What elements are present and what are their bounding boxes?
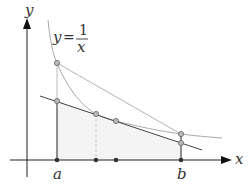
- point-tangency: [93, 111, 98, 116]
- y-axis-label: y: [24, 1, 34, 19]
- tick-label-a: a: [53, 165, 62, 183]
- function-label-numerator: 1: [79, 22, 88, 38]
- point-curve-at-b: [178, 131, 183, 136]
- point-tangent-at-a: [54, 98, 59, 103]
- axis-point-b: [179, 158, 184, 163]
- point-curve-at-a: [54, 60, 59, 65]
- point-tangent-at-b: [178, 140, 183, 145]
- x-axis-arrow-icon: [221, 156, 232, 164]
- axis-point-midpoint: [94, 158, 99, 163]
- function-label-lhs: y: [52, 28, 62, 46]
- axis-point-extra: [114, 158, 119, 163]
- reciprocal-function-diagram: x y a b y = 1 x: [0, 0, 249, 189]
- x-axis-label: x: [235, 150, 244, 168]
- function-label-equals: =: [63, 29, 75, 45]
- point-curve-mid: [113, 118, 118, 123]
- y-axis-arrow-icon: [23, 18, 31, 29]
- axis-point-a: [55, 158, 60, 163]
- shaded-area-under-tangent: [57, 101, 181, 160]
- function-label-denominator: x: [77, 38, 86, 56]
- function-label: y = 1 x: [52, 22, 88, 56]
- tick-label-b: b: [177, 165, 187, 183]
